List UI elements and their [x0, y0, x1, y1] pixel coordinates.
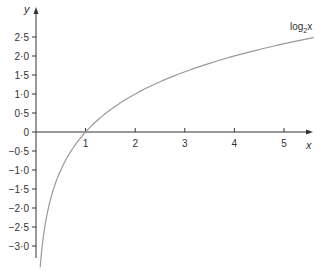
x-tick-label: 3: [182, 138, 188, 149]
y-tick-label: −0·5: [9, 146, 30, 157]
ticks: 123452·52·01·51·00·50−0·5−1·0−1·5−2·0−2·…: [9, 32, 288, 252]
y-tick-label: 1·5: [15, 70, 30, 81]
x-tick-label: 4: [232, 138, 238, 149]
y-axis-arrow-icon: [34, 7, 39, 14]
y-tick-label: −3·0: [9, 241, 30, 252]
log2-curve: [40, 38, 314, 268]
y-tick-label: −2·0: [9, 203, 30, 214]
y-tick-label: −1·0: [9, 165, 30, 176]
curve-label-suffix: x: [307, 21, 312, 32]
curve-label: log2x: [290, 21, 312, 34]
x-tick-label: 1: [83, 138, 89, 149]
y-tick-label: 0·5: [15, 108, 30, 119]
y-tick-label: 1·0: [15, 89, 30, 100]
axes: [32, 7, 313, 258]
log2-chart: 123452·52·01·51·00·50−0·5−1·0−1·5−2·0−2·…: [0, 0, 320, 276]
curve-label-base: log: [290, 21, 303, 32]
y-axis-label: y: [23, 3, 31, 15]
x-tick-label: 2: [132, 138, 138, 149]
y-tick-label: −1·5: [9, 184, 30, 195]
y-tick-label: 2·0: [15, 51, 30, 62]
x-tick-label: 5: [281, 138, 287, 149]
y-tick-label: 2·5: [15, 32, 30, 43]
x-axis-label: x: [305, 139, 312, 151]
x-axis-arrow-icon: [306, 130, 313, 135]
y-tick-label: −2·5: [9, 222, 30, 233]
y-tick-label: 0: [23, 127, 29, 138]
